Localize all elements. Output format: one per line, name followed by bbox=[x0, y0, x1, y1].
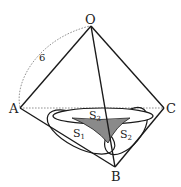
vertex-label-b: B bbox=[111, 169, 121, 184]
region-label-s1: S1 bbox=[73, 127, 85, 141]
edge-ob bbox=[91, 26, 115, 167]
edge-length-arc bbox=[19, 26, 90, 107]
edge-oa bbox=[20, 26, 91, 108]
vertex-label-a: A bbox=[8, 101, 19, 116]
region-label-s2: S2 bbox=[120, 128, 132, 142]
tetrahedron-diagram: O A C B 6 S3 S1 S2 bbox=[0, 0, 181, 187]
vertex-label-o: O bbox=[85, 12, 96, 27]
edge-oc bbox=[91, 26, 164, 108]
vertex-label-c: C bbox=[166, 101, 176, 116]
edge-length-label: 6 bbox=[39, 52, 45, 63]
